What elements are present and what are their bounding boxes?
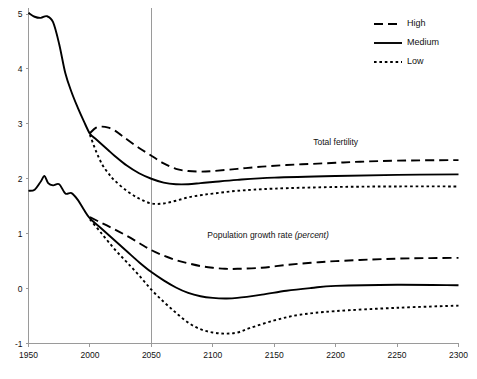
- x-tick-label: 2200: [326, 350, 345, 360]
- legend-label-low: Low: [407, 56, 424, 66]
- series-group-population-growth-rate-percent: [29, 176, 459, 334]
- legend-item-low[interactable]: Low: [374, 56, 424, 66]
- y-tick-label: 1: [18, 229, 23, 239]
- population-projection-chart: -101234519502000205021002150220022502300…: [0, 0, 477, 379]
- legend-label-high: High: [407, 18, 426, 28]
- legend-item-high[interactable]: High: [374, 18, 426, 28]
- annotation-total-fertility: Total fertility: [313, 137, 359, 147]
- annotation-text: Population growth rate: [207, 230, 294, 240]
- annotation-text: Total fertility: [313, 137, 359, 147]
- x-tick-label: 1950: [19, 350, 38, 360]
- y-tick-label: 2: [18, 174, 23, 184]
- legend-label-medium: Medium: [407, 37, 439, 47]
- line-total-fertility-high: [90, 127, 459, 172]
- x-tick-label: 2000: [80, 350, 99, 360]
- x-tick-label: 2150: [265, 350, 284, 360]
- x-tick-label: 2050: [142, 350, 161, 360]
- annotation-population-growth-rate: Population growth rate (percent): [207, 230, 329, 240]
- y-tick-label: 3: [18, 119, 23, 129]
- chart-canvas: -101234519502000205021002150220022502300…: [0, 0, 477, 379]
- x-tick-label: 2100: [203, 350, 222, 360]
- legend-item-medium[interactable]: Medium: [374, 37, 439, 47]
- x-tick-label: 2300: [449, 350, 468, 360]
- axes: -101234519502000205021002150220022502300: [15, 8, 468, 360]
- chart-annotations: Total fertilityPopulation growth rate (p…: [207, 137, 358, 240]
- line-population-growth-rate-percent-high: [90, 217, 459, 269]
- chart-legend: HighMediumLow: [374, 18, 439, 66]
- line-total-fertility-low: [90, 135, 459, 204]
- y-tick-label: 0: [18, 284, 23, 294]
- annotation-text-italic: (percent): [295, 230, 329, 240]
- x-tick-label: 2250: [388, 350, 407, 360]
- y-tick-label: 4: [18, 64, 23, 74]
- line-total-fertility-medium: [29, 13, 459, 185]
- data-series: [29, 13, 459, 334]
- y-tick-label: 5: [18, 9, 23, 19]
- series-group-total-fertility: [29, 13, 459, 204]
- y-tick-label: -1: [15, 339, 23, 349]
